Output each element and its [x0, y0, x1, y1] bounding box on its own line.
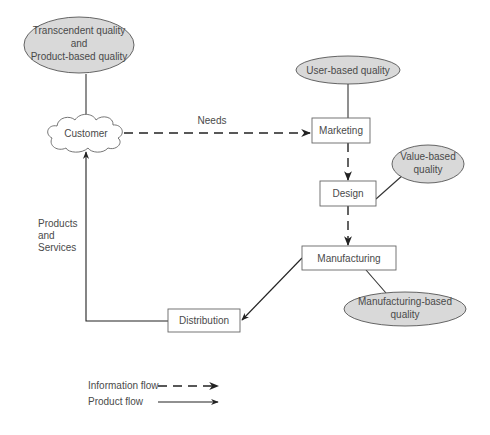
legend-information-flow-label: Information flow	[88, 380, 159, 391]
manufacturing-based-label-line2: quality	[391, 309, 420, 320]
manufacturing-based-quality-ellipse: Manufacturing-based quality	[344, 292, 466, 326]
manufacturing-based-label-line1: Manufacturing-based	[358, 296, 452, 307]
user-based-quality-ellipse: User-based quality	[296, 56, 400, 84]
needs-label: Needs	[198, 115, 227, 126]
customer-label: Customer	[64, 128, 108, 139]
value-based-label-line2: quality	[414, 164, 443, 175]
manufacturing-box: Manufacturing	[302, 246, 396, 270]
services-label: Services	[38, 242, 76, 253]
manufacturing-to-distribution-arrow	[242, 258, 302, 320]
connector-value-design	[376, 175, 403, 199]
quality-flow-diagram: Transcendent quality and Product-based q…	[0, 0, 490, 435]
products-label: Products	[38, 218, 77, 229]
legend-product-flow-label: Product flow	[88, 396, 144, 407]
transcendent-label: Transcendent quality	[33, 25, 125, 36]
marketing-box: Marketing	[312, 118, 370, 143]
design-label: Design	[332, 188, 363, 199]
distribution-label: Distribution	[179, 315, 229, 326]
design-box: Design	[320, 181, 376, 206]
and-label: and	[71, 38, 88, 49]
value-based-quality-ellipse: Value-based quality	[392, 145, 464, 183]
distribution-to-customer-arrow	[86, 152, 168, 321]
manufacturing-label: Manufacturing	[317, 253, 380, 264]
and-services-label: and	[38, 230, 55, 241]
legend: Information flow Product flow	[88, 380, 218, 407]
distribution-box: Distribution	[168, 309, 240, 332]
customer-cloud: Customer	[48, 114, 123, 152]
value-based-label-line1: Value-based	[400, 151, 455, 162]
transcendent-product-quality-ellipse: Transcendent quality and Product-based q…	[24, 17, 134, 73]
connector-manufacturing-quality	[366, 270, 386, 293]
product-based-label: Product-based quality	[31, 51, 128, 62]
marketing-label: Marketing	[319, 125, 363, 136]
products-and-services-label: Products and Services	[38, 218, 77, 253]
user-based-label: User-based quality	[306, 65, 389, 76]
